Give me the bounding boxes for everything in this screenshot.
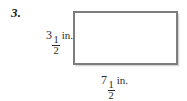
height-fraction: 1 2 [52, 35, 59, 57]
width-dimension-label: 7 1 2 in. [101, 74, 128, 98]
width-numerator: 1 [108, 80, 115, 90]
height-numerator: 1 [52, 35, 59, 45]
width-whole-number: 7 [101, 74, 107, 86]
width-fraction: 1 2 [108, 80, 115, 101]
problem-number: 3. [11, 6, 21, 19]
height-dimension-label: 3 1 2 in. [46, 29, 73, 53]
height-whole-number: 3 [46, 29, 52, 41]
worksheet-figure-page: 3. 3 1 2 in. 7 1 2 in. [0, 0, 187, 100]
width-denominator: 2 [108, 91, 115, 100]
height-unit: in. [62, 30, 73, 41]
height-denominator: 2 [52, 46, 59, 56]
width-unit: in. [117, 75, 128, 86]
rectangle-figure [73, 11, 178, 65]
